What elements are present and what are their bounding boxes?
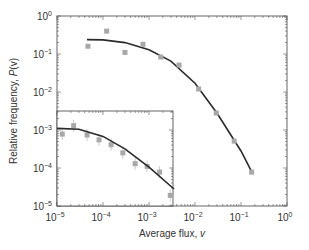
svg-text:100: 100 — [277, 211, 292, 223]
svg-text:10−2: 10−2 — [33, 86, 52, 98]
data-point — [85, 132, 90, 137]
data-point — [158, 55, 163, 60]
y-tick-labels: 10010−110−210−310−410−5 — [33, 10, 52, 212]
svg-text:100: 100 — [37, 10, 52, 22]
svg-text:10−5: 10−5 — [33, 200, 52, 212]
svg-text:10−1: 10−1 — [33, 48, 52, 60]
y-axis-title: Relative frequency, P(v) — [8, 58, 19, 164]
data-point — [232, 139, 237, 144]
data-point — [177, 63, 182, 68]
data-point — [120, 150, 125, 155]
svg-text:10−4: 10−4 — [91, 211, 110, 223]
data-point — [104, 29, 109, 34]
data-point — [214, 111, 219, 116]
data-point — [71, 123, 76, 128]
data-point — [196, 86, 201, 91]
chart: 10−510−410−310−210−1100 10010−110−210−31… — [0, 0, 309, 250]
svg-text:10−5: 10−5 — [45, 211, 64, 223]
svg-text:10−2: 10−2 — [183, 211, 202, 223]
x-axis-title: Average flux, v — [139, 228, 206, 239]
svg-text:10−4: 10−4 — [33, 162, 52, 174]
svg-text:10−3: 10−3 — [137, 211, 156, 223]
data-point — [157, 170, 162, 175]
x-tick-labels: 10−510−410−310−210−1100 — [45, 211, 292, 223]
data-point — [85, 44, 90, 49]
data-point — [140, 42, 145, 47]
data-point — [168, 193, 173, 198]
data-point — [109, 142, 114, 147]
data-point — [97, 137, 102, 142]
data-point — [60, 132, 65, 137]
data-point — [133, 161, 138, 166]
data-point — [249, 170, 254, 175]
inset-plot — [57, 111, 174, 206]
data-point — [122, 50, 127, 55]
svg-text:10−3: 10−3 — [33, 124, 52, 136]
svg-text:10−1: 10−1 — [229, 211, 248, 223]
